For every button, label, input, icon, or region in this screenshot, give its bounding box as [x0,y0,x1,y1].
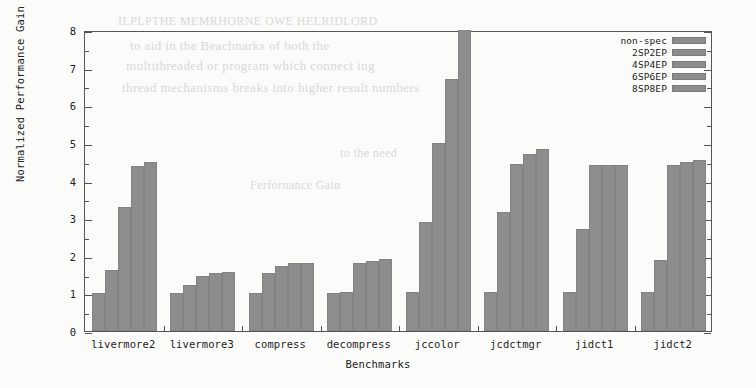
y-axis-tick-label: 4 [50,176,76,188]
legend-item-label: 2SP2EP [632,47,667,58]
legend-item: 8SP8EP [616,83,706,94]
x-axis-tick-label: livermore2 [91,338,155,350]
bar [693,160,706,331]
bar [406,292,419,332]
y-axis-tick [704,333,711,334]
chart-legend: non-spec2SP2EP4SP4EP6SP6EP8SP8EP [612,33,710,98]
bar [432,143,445,331]
legend-item: 2SP2EP [616,47,706,58]
legend-swatch [672,37,706,44]
legend-item: 4SP4EP [616,59,706,70]
x-axis-tick-label: livermore3 [170,338,234,350]
x-axis-tick-label: decompress [327,338,391,350]
y-axis-tick [85,333,92,334]
x-axis-tick-label: jccolor [415,338,460,350]
y-axis-title: Normalized Performance Gain [14,6,26,182]
y-axis-tick-label: 8 [50,25,76,37]
bar [576,229,589,331]
x-axis-title: Benchmarks [0,358,756,370]
bar-group [478,32,557,331]
bar [249,293,262,331]
y-axis-tick-label: 0 [50,326,76,338]
x-axis-tick-label: compress [255,338,306,350]
bar-group [164,32,243,331]
legend-swatch [672,73,706,80]
bar [275,266,288,331]
bar [118,207,131,331]
x-axis-tick-label: jidct2 [653,338,692,350]
legend-item-label: 6SP6EP [632,71,667,82]
bar [262,273,275,331]
bar [667,165,680,331]
bar [419,222,432,331]
bar [327,293,340,331]
y-axis-tick-label: 5 [50,138,76,150]
legend-swatch [672,61,706,68]
bar [523,154,536,331]
legend-item-label: 8SP8EP [632,83,667,94]
bar [563,292,576,332]
bar [92,293,105,331]
bar [366,261,379,331]
bar [170,293,183,331]
bar [615,165,628,331]
bar [144,162,157,331]
y-axis-tick-label: 2 [50,251,76,263]
legend-item-label: non-spec [620,35,667,46]
chart-page: ILPLPTHE MEMRHORNE OWE HELRIDLORDto aid … [0,0,756,388]
bar [183,285,196,331]
bar [209,273,222,331]
y-axis-tick-label: 6 [50,100,76,112]
legend-swatch [672,85,706,92]
legend-item: 6SP6EP [616,71,706,82]
bar [458,30,471,331]
bar [222,272,235,331]
bar-chart: Normalized Performance Gain 012345678 li… [0,0,756,388]
bar [536,149,549,331]
bar-group [321,32,400,331]
bar [379,259,392,331]
bar [602,165,615,331]
bar-group [85,32,164,331]
bar [445,79,458,331]
legend-swatch [672,49,706,56]
bar [641,292,654,332]
bar [353,263,366,331]
legend-item: non-spec [616,35,706,46]
bar [510,164,523,331]
bar [680,162,693,331]
bar-group [399,32,478,331]
y-axis-tick-label: 7 [50,63,76,75]
x-axis-tick-label: jcdctmgr [490,338,541,350]
bar-group [242,32,321,331]
bar [654,260,667,331]
bar [301,263,314,331]
bar [105,270,118,331]
y-axis-tick-label: 1 [50,288,76,300]
bar [484,292,497,332]
bar [589,165,602,331]
x-axis-tick-label: jidct1 [575,338,614,350]
bar [131,166,144,331]
bar [196,276,209,331]
legend-item-label: 4SP4EP [632,59,667,70]
bar [340,292,353,332]
bar [497,212,510,331]
bar [288,263,301,331]
y-axis-tick-label: 3 [50,213,76,225]
